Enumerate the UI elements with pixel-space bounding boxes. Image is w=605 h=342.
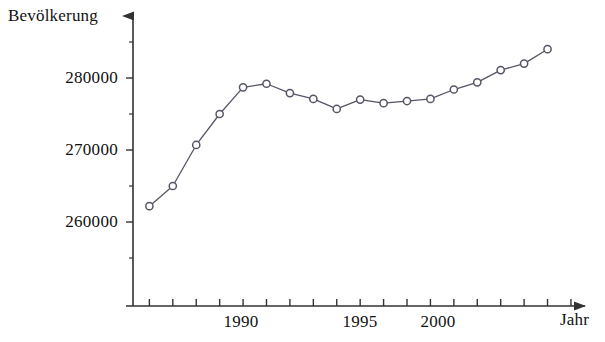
data-point-markers [146,46,551,210]
data-point-marker [521,60,528,67]
x-axis-title: Jahr [560,310,589,330]
chart-plot-area [0,0,605,342]
data-point-marker [380,100,387,107]
data-point-marker [263,80,270,87]
x-axis-ticks [149,299,571,306]
data-point-marker [427,95,434,102]
x-tick-label-1995: 1995 [330,312,390,332]
data-point-marker [216,110,223,117]
y-tick-label-280000: 280000 [8,68,118,88]
population-trend-line [149,49,547,206]
y-tick-label-260000: 260000 [8,212,118,232]
data-point-marker [497,66,504,73]
data-point-marker [333,105,340,112]
data-point-marker [286,90,293,97]
y-tick-label-270000: 270000 [8,140,118,160]
data-point-marker [193,141,200,148]
data-point-marker [310,95,317,102]
data-point-marker [544,46,551,53]
data-point-marker [146,203,153,210]
data-point-marker [403,97,410,104]
x-tick-label-2000: 2000 [408,312,468,332]
y-axis-title: Bevölkerung [8,6,98,26]
data-point-marker [239,84,246,91]
y-axis-ticks [126,42,133,258]
axes-group [126,16,585,306]
x-tick-label-1990: 1990 [211,312,271,332]
data-point-marker [450,86,457,93]
data-point-marker [169,182,176,189]
data-point-marker [474,79,481,86]
data-point-marker [357,96,364,103]
population-line-chart: Bevölkerung Jahr 280000 270000 260000 19… [0,0,605,342]
